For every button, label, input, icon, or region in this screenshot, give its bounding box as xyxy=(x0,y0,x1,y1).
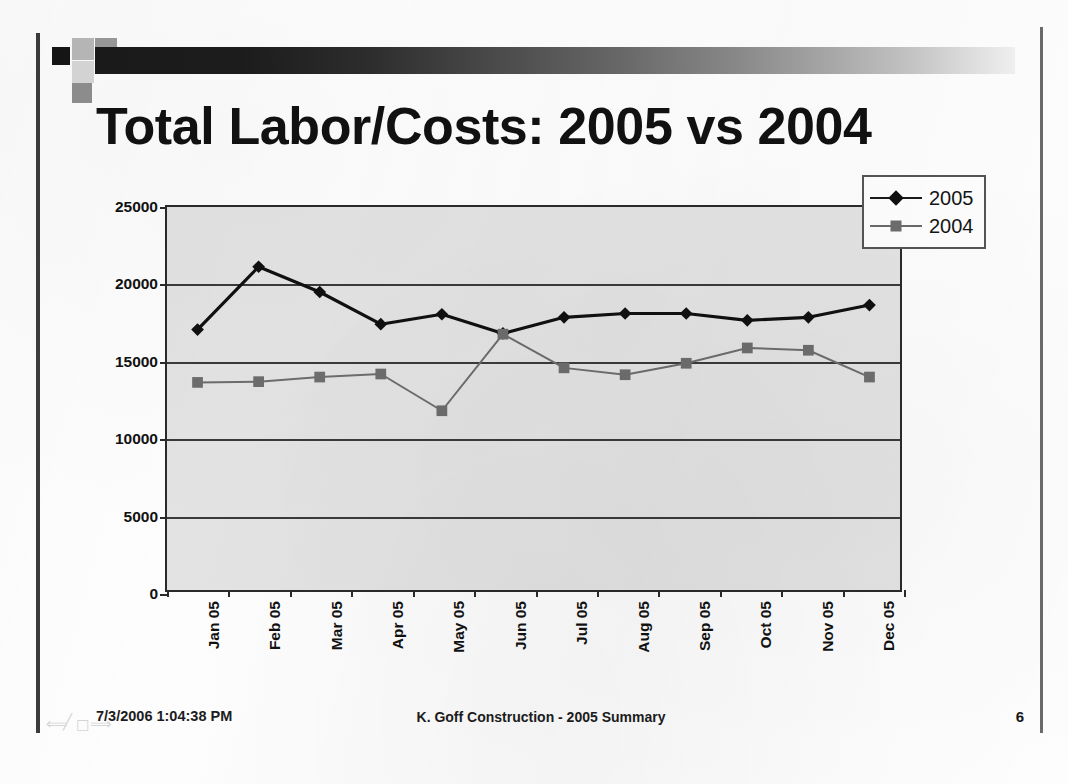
legend-item-2005: 2005 xyxy=(870,184,974,212)
x-tick-label: Apr 05 xyxy=(389,601,407,649)
x-tick-label: Sep 05 xyxy=(696,601,714,651)
x-tick-label: May 05 xyxy=(450,601,468,653)
legend-item-2004: 2004 xyxy=(870,212,974,240)
x-tick-label: Aug 05 xyxy=(635,601,653,653)
header-decoration-band xyxy=(48,38,1028,90)
data-point-marker xyxy=(620,369,631,380)
y-tick-label: 15000 xyxy=(115,353,158,371)
x-tick-mark xyxy=(658,590,660,597)
x-tick-mark xyxy=(720,590,722,597)
x-tick-label: Jun 05 xyxy=(512,601,530,650)
data-point-marker xyxy=(681,358,692,369)
data-point-marker xyxy=(863,299,876,312)
y-tick-label: 20000 xyxy=(115,275,158,293)
x-tick-label: Jul 05 xyxy=(573,601,591,645)
legend-marker-diamond-icon xyxy=(870,189,922,207)
data-point-marker xyxy=(436,308,449,321)
y-tick-label: 25000 xyxy=(115,198,158,216)
y-tick-label: 0 xyxy=(149,585,158,603)
series-line xyxy=(198,267,870,334)
data-point-marker xyxy=(802,311,815,324)
y-tick-label: 10000 xyxy=(115,430,158,448)
y-tick-mark xyxy=(160,439,167,441)
y-tick-mark xyxy=(160,594,167,596)
data-point-marker xyxy=(559,363,570,374)
series-2005 xyxy=(191,260,876,339)
y-tick-mark xyxy=(160,362,167,364)
chart-legend: 2005 2004 xyxy=(862,175,986,249)
band-square-dark xyxy=(52,47,70,65)
legend-label-2004: 2004 xyxy=(929,216,974,236)
data-point-marker xyxy=(864,372,875,383)
data-point-marker xyxy=(803,345,814,356)
data-point-marker xyxy=(741,314,754,327)
chart-region: 2500020000150001000050000 Jan 05Feb 05Ma… xyxy=(60,190,1040,690)
x-tick-label: Jan 05 xyxy=(205,601,223,649)
x-tick-mark xyxy=(413,590,415,597)
slide-footer: ⟸ ╱ ☐ ⟹ 7/3/2006 1:04:38 PM K. Goff Cons… xyxy=(46,706,1036,746)
data-point-marker xyxy=(192,377,203,388)
x-tick-mark xyxy=(228,590,230,597)
data-point-marker xyxy=(742,343,753,354)
data-point-marker xyxy=(437,405,448,416)
x-tick-mark xyxy=(167,590,169,597)
x-tick-label: Nov 05 xyxy=(819,601,837,652)
slide-left-border xyxy=(36,33,40,733)
band-square-grey-lower xyxy=(72,83,92,103)
x-tick-mark xyxy=(597,590,599,597)
data-point-marker xyxy=(619,307,632,320)
x-tick-mark xyxy=(351,590,353,597)
y-tick-mark xyxy=(160,517,167,519)
x-tick-label: Dec 05 xyxy=(880,601,898,651)
x-tick-label: Oct 05 xyxy=(757,601,775,648)
chart-plot-area: 2500020000150001000050000 Jan 05Feb 05Ma… xyxy=(165,205,902,592)
data-point-marker xyxy=(498,329,509,340)
y-tick-label: 5000 xyxy=(124,508,158,526)
footer-title: K. Goff Construction - 2005 Summary xyxy=(46,709,1036,725)
footer-page-number: 6 xyxy=(1016,708,1024,725)
data-point-marker xyxy=(375,369,386,380)
x-tick-mark xyxy=(781,590,783,597)
legend-label-2005: 2005 xyxy=(929,188,974,208)
x-tick-label: Mar 05 xyxy=(328,601,346,650)
legend-marker-square-icon xyxy=(870,217,922,235)
x-tick-mark xyxy=(290,590,292,597)
data-point-marker xyxy=(314,372,325,383)
data-point-marker xyxy=(253,376,264,387)
x-tick-mark xyxy=(904,590,906,597)
data-point-marker xyxy=(313,286,326,299)
x-tick-mark xyxy=(474,590,476,597)
data-point-marker xyxy=(374,318,387,331)
data-point-marker xyxy=(558,311,571,324)
series-line xyxy=(198,334,870,411)
band-square-light xyxy=(72,61,94,83)
x-tick-mark xyxy=(536,590,538,597)
page-title: Total Labor/Costs: 2005 vs 2004 xyxy=(96,96,996,156)
band-gradient-bar xyxy=(95,47,1015,74)
x-tick-mark xyxy=(843,590,845,597)
slide-right-border xyxy=(1040,27,1043,733)
series-2004 xyxy=(192,329,875,416)
data-point-marker xyxy=(680,307,693,320)
y-tick-mark xyxy=(160,284,167,286)
chart-series-layer xyxy=(167,207,900,590)
x-tick-label: Feb 05 xyxy=(266,601,284,650)
band-square-mid xyxy=(72,38,94,60)
slide-canvas: Total Labor/Costs: 2005 vs 2004 25000200… xyxy=(0,0,1068,784)
y-tick-mark xyxy=(160,207,167,209)
